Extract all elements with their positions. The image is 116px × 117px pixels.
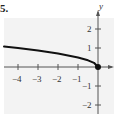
y-tick-label: −1 (82, 81, 92, 91)
closed-endpoint-dot (95, 64, 101, 70)
y-tick-label: 1 (87, 43, 92, 53)
function-graph: y −4 −3 −2 −1 2 1 −1 −2 (0, 0, 116, 117)
y-axis-label: y (98, 1, 103, 11)
y-tick-label: 2 (87, 24, 92, 34)
x-tick-label: −2 (52, 74, 62, 84)
y-tick-label: −2 (82, 100, 92, 110)
x-tick-label: −4 (12, 74, 22, 84)
x-tick-label: −3 (32, 74, 42, 84)
x-tick-label: −1 (72, 74, 82, 84)
